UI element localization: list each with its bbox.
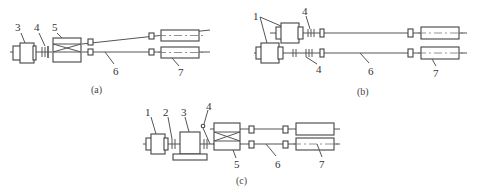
motor-icon xyxy=(146,134,168,154)
gear-stand-icon xyxy=(214,123,240,150)
label-3: 3 xyxy=(15,21,21,33)
label-4-upper: 4 xyxy=(302,5,308,17)
caption-b: (b) xyxy=(357,86,369,98)
panel-c: 1 2 3 4 5 6 7 (c) xyxy=(143,100,341,187)
label-4-lower: 4 xyxy=(316,63,322,75)
label-5: 5 xyxy=(52,21,58,33)
roll-upper-icon xyxy=(296,123,334,135)
reducer-icon xyxy=(173,132,207,160)
label-4: 4 xyxy=(34,21,40,33)
label-5: 5 xyxy=(234,158,240,170)
label-2: 2 xyxy=(163,106,169,118)
gear-stand-icon xyxy=(53,38,81,62)
label-6: 6 xyxy=(275,158,281,170)
caption-c: (c) xyxy=(236,175,247,187)
label-7: 7 xyxy=(178,66,184,78)
caption-a: (a) xyxy=(91,84,102,96)
roll-upper-icon xyxy=(418,27,466,39)
motor-icon xyxy=(13,43,36,63)
label-6: 6 xyxy=(113,65,119,77)
roll-lower-icon xyxy=(158,47,206,58)
motor-lower-icon xyxy=(256,43,283,63)
label-6: 6 xyxy=(368,65,374,77)
panel-b: 1 4 4 6 7 (b) xyxy=(253,5,467,98)
label-7: 7 xyxy=(433,67,439,79)
drive-train-diagram: 3 4 5 6 7 (a) xyxy=(0,0,478,194)
label-7: 7 xyxy=(319,158,325,170)
label-1: 1 xyxy=(145,106,151,118)
panel-a: 3 4 5 6 7 (a) xyxy=(10,21,210,96)
roll-upper-icon xyxy=(158,30,206,41)
label-3: 3 xyxy=(181,106,187,118)
label-1: 1 xyxy=(253,10,259,22)
roll-lower-icon xyxy=(418,47,466,59)
label-4: 4 xyxy=(206,100,212,112)
